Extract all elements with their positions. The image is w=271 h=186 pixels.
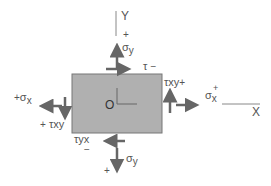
sigma-x-right-sign: + <box>213 84 218 93</box>
sigma-y-bottom-label: σy <box>126 153 138 164</box>
subscript: y <box>133 156 138 167</box>
sigma-symbol: σ <box>20 91 27 103</box>
subscript: xy <box>168 76 179 88</box>
tau-top-sign: − <box>150 61 156 72</box>
sigma-symbol: σ <box>126 152 133 164</box>
tau-xy-left-sign: + <box>40 119 46 130</box>
tau-yx-bottom-sign: − <box>84 145 90 155</box>
sigma-y-top-label: σy <box>122 42 134 53</box>
tau-xy-right-label: τxy+ <box>164 77 185 88</box>
x-axis-label: X <box>252 106 260 118</box>
sigma-y-top-sign: + <box>123 30 129 40</box>
tau-xy-right-sign: + <box>179 77 185 88</box>
subscript: xy <box>53 118 64 130</box>
sigma-x-right-label: σx+ <box>205 90 217 101</box>
y-axis-label: Y <box>121 10 129 22</box>
sigma-symbol: σ <box>205 89 212 101</box>
sigma-x-left-label: +σx <box>14 92 32 103</box>
tau-symbol: τ <box>143 60 147 72</box>
sigma-symbol: σ <box>122 41 129 53</box>
tau-xy-left-label: + τxy <box>40 119 64 130</box>
subscript: y <box>129 45 134 56</box>
subscript: x <box>27 95 32 106</box>
subscript: x <box>212 93 217 104</box>
sigma-y-bottom-sign: + <box>104 166 110 176</box>
tau-top-label: τ − <box>143 61 156 72</box>
origin-label: O <box>105 99 114 111</box>
